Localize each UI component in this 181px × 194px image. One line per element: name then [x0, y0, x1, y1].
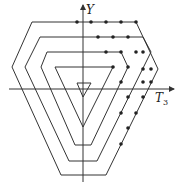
weight-dot: [119, 111, 123, 115]
weight-dot: [141, 50, 145, 54]
third-hexagon: [41, 52, 128, 145]
weight-dot: [89, 20, 93, 24]
t3-axis-label: T3: [155, 92, 168, 107]
outer-hexagon: [12, 22, 158, 175]
weight-dot: [134, 50, 138, 54]
shell-polygons: [12, 22, 158, 175]
t3-axis-letter: T: [155, 91, 163, 105]
weight-dot: [104, 20, 108, 24]
weight-dot: [149, 80, 153, 84]
center-triangle: [77, 83, 91, 97]
diagram-canvas: [0, 0, 181, 194]
weight-dot: [119, 20, 123, 24]
weight-dot: [75, 20, 79, 24]
weight-dot: [96, 35, 100, 39]
weight-dot: [119, 50, 123, 54]
weight-dot: [119, 142, 123, 146]
weight-dot: [141, 95, 145, 99]
weight-dot: [126, 95, 130, 99]
weight-diagram: Y T3: [0, 0, 181, 194]
second-hexagon: [25, 37, 151, 161]
weight-dot: [141, 80, 145, 84]
weight-dot: [104, 50, 108, 54]
weight-dot: [149, 67, 153, 71]
y-axis-label: Y: [86, 4, 94, 16]
weight-dot: [119, 80, 123, 84]
weight-dot: [134, 111, 138, 115]
weight-dot: [126, 35, 130, 39]
weight-dot: [126, 65, 130, 69]
t3-axis-subscript: 3: [163, 98, 168, 107]
weight-dot: [111, 35, 115, 39]
weight-dot: [111, 65, 115, 69]
weight-dot: [141, 67, 145, 71]
weight-dot: [134, 20, 138, 24]
weight-dot: [126, 126, 130, 130]
